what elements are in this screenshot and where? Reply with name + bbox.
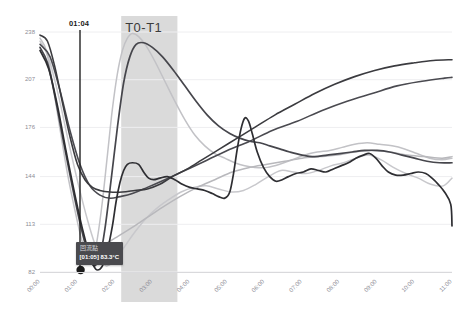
reflow-point-tooltip: 回流點 [01:05] 83.3°C bbox=[76, 242, 123, 265]
y-tick-label: 207 bbox=[25, 76, 36, 82]
vertical-marker-label: 01:04 bbox=[69, 19, 89, 28]
x-tick-label: 10:00 bbox=[400, 278, 415, 293]
x-tick-label: 00:00 bbox=[26, 278, 41, 293]
x-axis-ticks: 00:0001:0002:0003:0004:0005:0006:0007:00… bbox=[26, 278, 453, 293]
y-tick-label: 113 bbox=[25, 221, 35, 227]
x-tick-label: 09:00 bbox=[363, 278, 378, 293]
x-tick-label: 01:00 bbox=[63, 278, 78, 293]
series-line-series-dark-spike bbox=[40, 50, 452, 270]
x-tick-label: 04:00 bbox=[176, 278, 191, 293]
x-tick-label: 07:00 bbox=[288, 278, 303, 293]
chart-canvas[interactable]: 23820717614411382 00:0001:0002:0003:0004… bbox=[0, 0, 465, 313]
y-tick-label: 238 bbox=[25, 29, 36, 35]
tooltip-title: 回流點 bbox=[80, 244, 119, 253]
x-tick-label: 05:00 bbox=[213, 278, 228, 293]
band-label: T0-T1 bbox=[125, 20, 162, 35]
series-line-series-light-rise bbox=[40, 34, 452, 262]
series-line-series-dark-peak bbox=[40, 42, 452, 266]
y-tick-label: 144 bbox=[25, 173, 36, 179]
y-axis-ticks: 23820717614411382 bbox=[25, 29, 36, 275]
x-tick-label: 06:00 bbox=[251, 278, 266, 293]
x-tick-label: 11:00 bbox=[438, 278, 453, 293]
series-lines bbox=[40, 34, 452, 270]
y-tick-label: 82 bbox=[28, 269, 35, 275]
tooltip-value: [01:05] 83.3°C bbox=[80, 253, 119, 262]
x-tick-label: 02:00 bbox=[101, 278, 116, 293]
x-tick-label: 08:00 bbox=[325, 278, 340, 293]
y-tick-label: 176 bbox=[25, 124, 36, 130]
chart-container: 23820717614411382 00:0001:0002:0003:0004… bbox=[0, 0, 465, 313]
series-line-series-light-low bbox=[40, 41, 452, 266]
